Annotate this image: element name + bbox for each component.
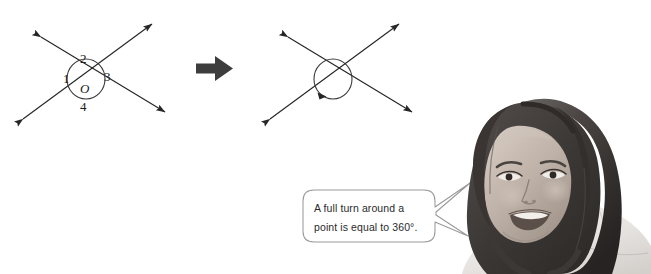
diagram-right-vertex-circle <box>314 59 352 99</box>
diagram-left <box>23 24 165 119</box>
diagram-left-label-2: 2 <box>80 52 87 65</box>
illustration-page: 1 2 3 4 O A full turn around a point is … <box>0 0 651 274</box>
diagram-right <box>270 24 412 119</box>
speech-bubble-line-2: point is equal to 360°. <box>314 218 430 237</box>
diagram-right-line-a <box>288 37 412 112</box>
transform-arrow <box>196 56 233 81</box>
speech-bubble-text: A full turn around a point is equal to 3… <box>314 199 430 237</box>
turn-arrowhead-icon <box>318 93 327 100</box>
speech-bubble-line-1: A full turn around a <box>314 199 430 218</box>
student-portrait <box>462 99 651 274</box>
diagram-left-label-3: 3 <box>104 70 111 83</box>
diagram-left-line-a <box>41 37 165 112</box>
diagram-left-center-label: O <box>80 82 89 95</box>
diagram-left-label-4: 4 <box>80 100 87 113</box>
diagram-left-label-1: 1 <box>63 72 70 85</box>
